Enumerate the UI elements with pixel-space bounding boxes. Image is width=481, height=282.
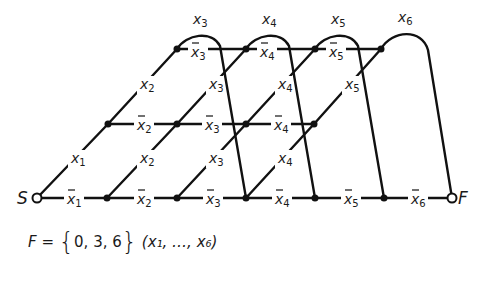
caption-brace-close: } — [122, 228, 137, 256]
node — [311, 121, 318, 128]
node — [174, 195, 181, 202]
arc-edge-x6 — [381, 34, 452, 198]
arc-label: x5 — [330, 11, 346, 29]
node — [104, 195, 111, 202]
node — [312, 46, 319, 53]
caption-brace-open: { — [59, 228, 74, 256]
arc-edge-x5 — [315, 36, 384, 198]
arc-label: x3 — [192, 11, 208, 29]
caption-args: (x₁, …, x₆) — [142, 233, 218, 251]
node — [105, 121, 112, 128]
node — [243, 46, 250, 53]
node — [174, 121, 181, 128]
final-node — [448, 194, 457, 203]
arc-label: x6 — [397, 9, 413, 27]
caption-equals: = — [41, 233, 54, 251]
start-node — [33, 194, 42, 203]
caption-set: 0, 3, 6 — [74, 233, 122, 251]
node — [243, 195, 250, 202]
node — [381, 195, 388, 202]
function-caption: F = {0, 3, 6} (x₁, …, x₆) — [28, 228, 217, 256]
node — [243, 121, 250, 128]
arc-label: x4 — [261, 11, 277, 29]
caption-lhs: F — [28, 233, 37, 251]
final-label: F — [458, 188, 468, 208]
node — [174, 46, 181, 53]
start-label: S — [17, 188, 28, 208]
node — [378, 46, 385, 53]
node — [312, 195, 319, 202]
